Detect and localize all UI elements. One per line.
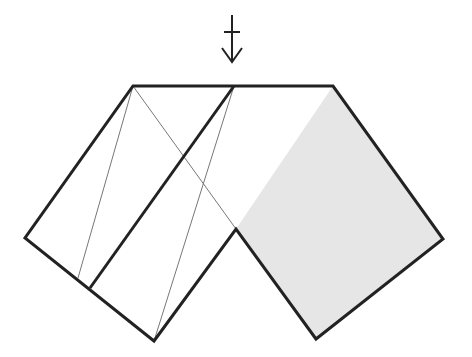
push-down-arrow-icon	[222, 15, 242, 62]
crease-line	[78, 86, 133, 278]
origami-diagram	[0, 0, 472, 357]
crease-line	[154, 86, 234, 341]
thin-crease-lines	[78, 86, 236, 341]
shaded-back-panel	[236, 86, 443, 339]
